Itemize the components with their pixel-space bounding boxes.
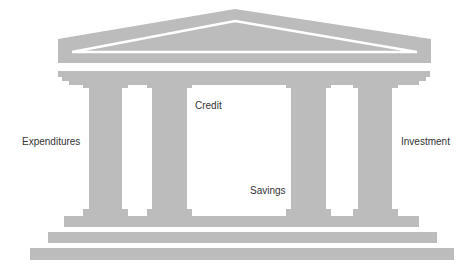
label-expenditures: Expenditures xyxy=(22,136,80,148)
column-2-base xyxy=(147,209,192,217)
entablature-step-2 xyxy=(69,81,419,85)
column-1 xyxy=(89,85,122,215)
column-4-base xyxy=(353,209,398,217)
base-step-3 xyxy=(30,248,454,260)
entablature-step-1 xyxy=(62,77,426,81)
label-savings: Savings xyxy=(250,185,286,197)
column-3-base xyxy=(286,209,331,217)
pediment-roof xyxy=(58,9,431,63)
label-investment: Investment xyxy=(401,136,450,148)
column-4 xyxy=(358,85,392,215)
column-3 xyxy=(291,85,326,215)
column-1-base xyxy=(83,209,128,217)
architrave xyxy=(58,71,430,77)
temple-diagram xyxy=(0,0,469,267)
plinth xyxy=(64,216,419,227)
label-credit: Credit xyxy=(195,100,222,112)
base-step-2 xyxy=(48,232,437,243)
column-2 xyxy=(152,85,187,215)
